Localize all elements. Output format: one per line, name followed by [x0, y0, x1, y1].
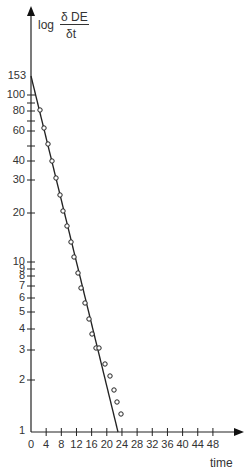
- data-point: [50, 159, 54, 163]
- y-axis-label-prefix: log: [38, 20, 54, 31]
- y-tick-label: 7: [0, 280, 25, 291]
- y-tick-label: 20: [0, 207, 25, 218]
- y-tick-label: 3: [0, 344, 25, 355]
- y-tick-label: 153: [0, 70, 26, 81]
- chart-canvas: [0, 0, 251, 476]
- y-tick-label: 40: [0, 155, 25, 166]
- data-point: [83, 301, 87, 305]
- y-axis-label-denominator: δt: [66, 29, 76, 40]
- data-point: [97, 346, 101, 350]
- y-tick-label: 4: [0, 323, 25, 334]
- data-point: [79, 286, 83, 290]
- y-axis-arrow-icon: [27, 6, 35, 16]
- data-point: [38, 108, 42, 112]
- y-tick-label: 30: [0, 174, 25, 185]
- data-point: [65, 224, 69, 228]
- y-tick-label: 60: [0, 125, 25, 136]
- data-point: [42, 126, 46, 130]
- data-point: [112, 388, 116, 392]
- data-point: [58, 193, 62, 197]
- data-point: [72, 255, 76, 259]
- y-tick-label: 80: [0, 105, 25, 116]
- data-point: [115, 400, 119, 404]
- x-tick-label: 48: [203, 439, 223, 450]
- x-axis-label: time: [210, 458, 233, 469]
- data-point: [90, 332, 94, 336]
- data-point: [61, 209, 65, 213]
- data-point: [76, 271, 80, 275]
- data-point: [69, 240, 73, 244]
- x-axis-arrow-icon: [234, 428, 244, 436]
- y-axis-label-numerator: δ DE: [60, 12, 89, 25]
- data-point: [46, 142, 50, 146]
- y-tick-label: 1: [0, 425, 25, 436]
- data-point: [87, 317, 91, 321]
- data-point: [103, 362, 107, 366]
- y-tick-label: 2: [0, 374, 25, 385]
- y-tick-label: 5: [0, 306, 25, 317]
- y-tick-label: 100: [0, 89, 25, 100]
- data-point: [119, 412, 123, 416]
- y-tick-label: 6: [0, 292, 25, 303]
- data-point: [54, 176, 58, 180]
- data-point: [108, 374, 112, 378]
